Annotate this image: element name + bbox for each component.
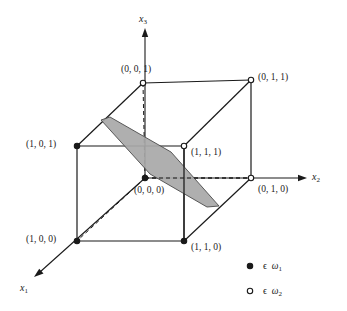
legend-omega1-class-label: ω bbox=[272, 261, 279, 271]
vertex-label-110: (1, 1, 0) bbox=[191, 243, 221, 253]
legend-omega2-member-symbol: ϵ bbox=[263, 285, 267, 296]
legend-marker-open bbox=[247, 288, 252, 293]
legend-omega2-class-subscript: 2 bbox=[279, 290, 283, 298]
axis-label-x2-sub: 2 bbox=[316, 176, 320, 184]
axis-label-x1-sub: 1 bbox=[24, 287, 28, 295]
vertex-marker-011 bbox=[248, 77, 253, 82]
vertex-marker-101 bbox=[74, 143, 79, 148]
edge-011-111 bbox=[184, 80, 251, 146]
axis-label-x2: x2 bbox=[312, 172, 320, 184]
vertex-label-100: (1, 0, 0) bbox=[26, 235, 56, 245]
axis-label-x1: x1 bbox=[20, 283, 28, 295]
cube-figure: (0, 0, 1) (0, 1, 1) (1, 0, 1) (1, 1, 1) … bbox=[0, 0, 347, 311]
vertex-marker-111 bbox=[181, 143, 186, 148]
legend-markers bbox=[247, 263, 252, 293]
vertex-marker-010 bbox=[248, 175, 253, 180]
vertex-label-011: (0, 1, 1) bbox=[258, 73, 288, 83]
vertex-marker-000 bbox=[142, 175, 147, 180]
legend-omega2-class-label: ω bbox=[272, 286, 279, 296]
axis-label-x3-sub: 3 bbox=[143, 18, 147, 26]
legend-omega1-class-subscript: 1 bbox=[279, 265, 283, 273]
legend-omega1: ϵ ω1 bbox=[263, 261, 282, 273]
edge-001-011 bbox=[143, 80, 251, 83]
legend-marker-filled bbox=[247, 263, 252, 268]
x2-axis-arrowhead bbox=[298, 175, 307, 181]
vertex-label-000: (0, 0, 0) bbox=[134, 186, 164, 196]
axis-label-x3: x3 bbox=[139, 14, 147, 26]
legend-omega1-member-symbol: ϵ bbox=[263, 260, 267, 271]
vertex-label-010: (0, 1, 0) bbox=[258, 185, 288, 195]
vertex-label-101: (1, 0, 1) bbox=[26, 140, 56, 150]
legend-omega2: ϵ ω2 bbox=[263, 286, 282, 298]
vertex-marker-001 bbox=[140, 80, 145, 85]
vertex-marker-110 bbox=[181, 238, 186, 243]
vertex-label-001: (0, 0, 1) bbox=[121, 65, 151, 75]
x3-axis-arrowhead bbox=[142, 28, 148, 37]
cube-svg bbox=[0, 0, 347, 311]
vertex-marker-100 bbox=[74, 238, 79, 243]
vertex-label-111: (1, 1, 1) bbox=[191, 148, 221, 158]
